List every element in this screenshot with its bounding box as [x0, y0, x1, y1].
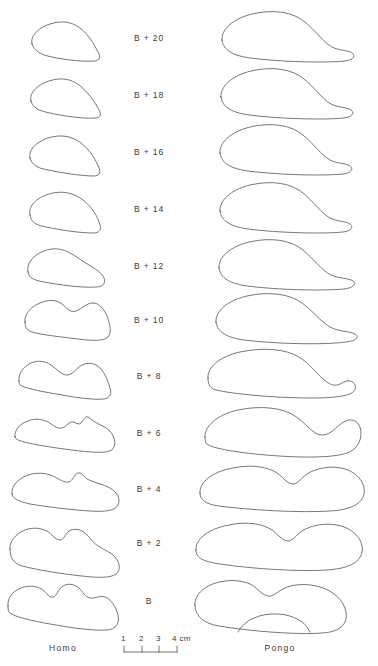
row-label-b-plus-14: B + 14: [109, 204, 189, 214]
row-label-b-plus-8: B + 8: [109, 371, 189, 381]
row-label-b-plus-10: B + 10: [109, 315, 189, 325]
homo-outline-b-plus-4: [12, 473, 119, 511]
scale-label-1: 1: [121, 634, 126, 643]
pongo-outline-group: [195, 12, 364, 634]
pongo-outline-b-plus-16: [220, 125, 352, 175]
scale-label-3: 3: [156, 634, 161, 643]
scale-bar-group: [124, 646, 177, 652]
pongo-outline-b: [195, 581, 346, 634]
pongo-outline-b-plus-8: [208, 349, 355, 398]
taxon-label-homo: Homo: [40, 643, 86, 653]
homo-outline-b-plus-16: [30, 136, 100, 176]
figure-canvas: B + 20 B + 18 B + 16 B + 14 B + 12 B + 1…: [0, 0, 378, 666]
row-label-b-plus-2: B + 2: [109, 538, 189, 548]
pongo-outline-b-plus-10: [216, 294, 357, 344]
homo-outline-b-plus-6: [15, 417, 115, 453]
pongo-inner-contour-b: [238, 614, 310, 632]
row-label-b-plus-18: B + 18: [109, 90, 189, 100]
homo-outline-b: [8, 584, 119, 630]
homo-outline-b-plus-10: [25, 300, 110, 340]
homo-outline-group: [8, 22, 119, 630]
row-label-b-plus-12: B + 12: [109, 261, 189, 271]
scale-unit-label: 4 cm: [172, 634, 191, 643]
pongo-outline-b-plus-6: [205, 408, 361, 457]
row-label-b: B: [109, 596, 189, 606]
pongo-outline-b-plus-18: [221, 69, 353, 119]
pongo-outline-b-plus-2: [196, 523, 362, 570]
outline-drawing-layer: [0, 0, 378, 666]
row-label-b-plus-6: B + 6: [109, 428, 189, 438]
homo-outline-b-plus-18: [31, 79, 101, 118]
homo-outline-b-plus-20: [32, 22, 100, 61]
row-label-b-plus-16: B + 16: [109, 147, 189, 157]
row-label-b-plus-4: B + 4: [109, 484, 189, 494]
homo-outline-b-plus-12: [28, 249, 105, 287]
pongo-outline-b-plus-4: [200, 466, 364, 511]
taxon-label-pongo: Pongo: [257, 643, 303, 653]
pongo-outline-b-plus-12: [219, 240, 355, 290]
homo-outline-b-plus-8: [19, 361, 111, 399]
pongo-outline-b-plus-14: [220, 183, 352, 233]
row-label-b-plus-20: B + 20: [109, 33, 189, 43]
homo-outline-b-plus-14: [30, 192, 101, 233]
homo-outline-b-plus-2: [10, 528, 119, 577]
pongo-outline-b-plus-20: [222, 12, 354, 62]
scale-label-2: 2: [139, 634, 144, 643]
